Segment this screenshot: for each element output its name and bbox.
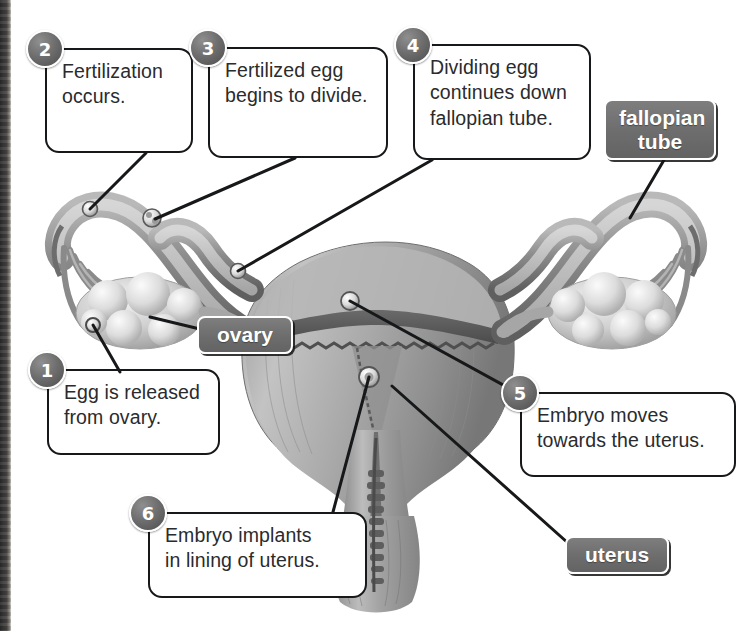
callout-2-line-2: occurs. (62, 84, 178, 109)
callout-step-6[interactable]: Embryo implants in lining of uterus. (148, 512, 367, 598)
callout-5-line-2: towards the uterus. (537, 428, 721, 453)
callout-step-5[interactable]: Embryo moves towards the uterus. (520, 392, 736, 477)
diagram-canvas: 2 Fertilization occurs. 3 Fertilized egg… (0, 0, 752, 631)
step-badge-2: 2 (26, 30, 64, 68)
step-badge-1: 1 (28, 351, 66, 389)
callout-4-line-1: Dividing egg (430, 55, 576, 80)
callout-5-line-1: Embryo moves (537, 403, 721, 428)
callout-6-line-1: Embryo implants (165, 523, 352, 548)
tag-fallopian-tube[interactable]: fallopian tube (604, 99, 716, 160)
callout-3-line-2: begins to divide. (225, 83, 373, 108)
tag-fallopian-tube-line-1: fallopian (619, 106, 701, 130)
callout-4-line-2: continues down (430, 80, 576, 105)
tag-ovary[interactable]: ovary (197, 316, 293, 354)
callout-step-3[interactable]: Fertilized egg begins to divide. (208, 47, 388, 158)
callout-1-line-2: from ovary. (64, 405, 205, 430)
step-badge-3: 3 (189, 29, 227, 67)
step-badge-6: 6 (129, 494, 167, 532)
step-badge-5: 5 (501, 374, 539, 412)
page-gutter-edge (0, 0, 11, 631)
callout-4-line-3: fallopian tube. (430, 106, 576, 131)
tag-ovary-line-1: ovary (212, 323, 278, 347)
callout-1-line-1: Egg is released (64, 380, 205, 405)
callout-2-line-1: Fertilization (62, 59, 178, 84)
callout-6-line-2: in lining of uterus. (165, 548, 352, 573)
callout-step-2[interactable]: Fertilization occurs. (45, 48, 193, 153)
tag-fallopian-tube-line-2: tube (619, 130, 701, 154)
callout-step-4[interactable]: Dividing egg continues down fallopian tu… (413, 44, 591, 160)
tag-uterus-line-1: uterus (580, 543, 654, 567)
callout-step-1[interactable]: Egg is released from ovary. (47, 369, 220, 455)
callout-3-line-1: Fertilized egg (225, 58, 373, 83)
step-badge-4: 4 (394, 26, 432, 64)
tag-uterus[interactable]: uterus (565, 536, 669, 574)
